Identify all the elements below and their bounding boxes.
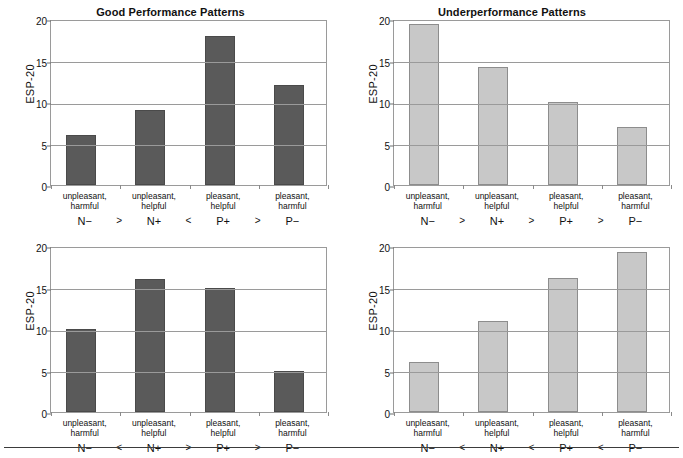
pattern-code: N+: [490, 215, 504, 227]
panel-title-underperformance: Underperformance Patterns: [341, 6, 683, 18]
y-tick-label: 10: [36, 99, 47, 110]
x-tick-mark: [463, 185, 464, 189]
y-tick-mark: [47, 289, 51, 290]
x-tick-mark: [120, 185, 121, 189]
y-tick-label: 20: [36, 243, 47, 254]
bar: [409, 362, 439, 412]
bar: [274, 371, 304, 413]
y-tick-label: 20: [36, 16, 47, 27]
pattern-code: N−: [77, 442, 91, 454]
comparison-operator: >: [116, 215, 122, 226]
plot-area-top-right: 05101520: [393, 20, 670, 186]
category-label: pleasant,harmful: [275, 418, 310, 438]
category-label: unpleasant,helpful: [132, 418, 176, 438]
x-tick-mark: [602, 412, 603, 416]
x-tick-mark: [671, 412, 672, 416]
category-label: pleasant,harmful: [275, 191, 310, 211]
y-tick-label: 15: [379, 57, 390, 68]
panel-bottom-right: ESP-20 05101520 unpleasant,harmfulunplea…: [341, 232, 683, 442]
bar: [274, 85, 304, 185]
gridline: [394, 104, 669, 105]
gridline: [394, 331, 669, 332]
x-tick-mark: [328, 185, 329, 189]
gridline: [394, 372, 669, 373]
category-label: unpleasant,helpful: [132, 191, 176, 211]
pattern-code: N+: [490, 442, 504, 454]
category-label: unpleasant,harmful: [406, 418, 450, 438]
category-label: unpleasant,harmful: [406, 191, 450, 211]
y-tick-mark: [47, 62, 51, 63]
y-tick-mark: [390, 289, 394, 290]
y-tick-label: 15: [36, 57, 47, 68]
x-tick-mark: [602, 185, 603, 189]
y-tick-mark: [390, 331, 394, 332]
category-label: pleasant,harmful: [618, 191, 653, 211]
y-tick-mark: [390, 104, 394, 105]
figure-four-panel-bar-charts: Good Performance Patterns ESP-20 0510152…: [0, 0, 683, 458]
y-tick-mark: [390, 62, 394, 63]
bar: [66, 135, 96, 185]
category-label: pleasant,helpful: [549, 418, 584, 438]
x-tick-mark: [533, 185, 534, 189]
category-label: pleasant,helpful: [206, 191, 241, 211]
y-tick-label: 15: [36, 284, 47, 295]
y-tick-label: 15: [379, 284, 390, 295]
y-tick-label: 10: [379, 99, 390, 110]
bar: [478, 67, 508, 185]
panel-top-left: Good Performance Patterns ESP-20 0510152…: [0, 0, 341, 232]
bar: [617, 252, 647, 412]
x-tick-mark: [328, 412, 329, 416]
bar: [548, 102, 578, 185]
y-axis-label-top-left: ESP-20: [24, 58, 36, 110]
y-tick-label: 10: [36, 326, 47, 337]
bar: [478, 321, 508, 412]
gridline: [51, 372, 326, 373]
gridline: [394, 145, 669, 146]
y-tick-mark: [47, 145, 51, 146]
x-tick-mark: [190, 412, 191, 416]
y-tick-label: 20: [379, 16, 390, 27]
panel-top-right: Underperformance Patterns ESP-20 0510152…: [341, 0, 683, 232]
y-tick-mark: [47, 331, 51, 332]
comparison-operator: >: [529, 215, 535, 226]
bar: [135, 110, 165, 185]
x-tick-mark: [533, 412, 534, 416]
x-tick-mark: [394, 185, 395, 189]
plot-area-bottom-left: 05101520: [50, 247, 327, 413]
pattern-code: P+: [559, 215, 573, 227]
x-tick-mark: [463, 412, 464, 416]
y-tick-label: 20: [379, 243, 390, 254]
x-tick-mark: [51, 185, 52, 189]
bar: [548, 278, 578, 412]
y-axis-label-top-right: ESP-20: [367, 58, 379, 110]
category-label: pleasant,helpful: [206, 418, 241, 438]
y-tick-label: 10: [379, 326, 390, 337]
y-tick-mark: [47, 372, 51, 373]
bar: [66, 329, 96, 412]
category-label: pleasant,harmful: [618, 418, 653, 438]
pattern-code: N−: [420, 215, 434, 227]
y-axis-label-bottom-left: ESP-20: [24, 285, 36, 337]
panel-bottom-left: ESP-20 05101520 unpleasant,harmfulunplea…: [0, 232, 341, 442]
y-tick-mark: [390, 372, 394, 373]
pattern-code: P−: [628, 215, 642, 227]
bar: [617, 127, 647, 185]
panel-title-good-performance: Good Performance Patterns: [0, 6, 341, 18]
y-tick-mark: [390, 21, 394, 22]
y-axis-label-bottom-right: ESP-20: [367, 285, 379, 337]
x-tick-mark: [259, 412, 260, 416]
pattern-code: N−: [77, 215, 91, 227]
pattern-code: P+: [216, 215, 230, 227]
category-label: unpleasant,harmful: [63, 418, 107, 438]
pattern-code: N+: [147, 215, 161, 227]
x-tick-mark: [394, 412, 395, 416]
x-tick-mark: [51, 412, 52, 416]
pattern-code: P−: [285, 215, 299, 227]
pattern-code: P+: [559, 442, 573, 454]
bar: [135, 279, 165, 412]
pattern-code: P−: [285, 442, 299, 454]
pattern-code: N−: [420, 442, 434, 454]
y-tick-mark: [47, 104, 51, 105]
y-tick-mark: [390, 145, 394, 146]
gridline: [51, 289, 326, 290]
